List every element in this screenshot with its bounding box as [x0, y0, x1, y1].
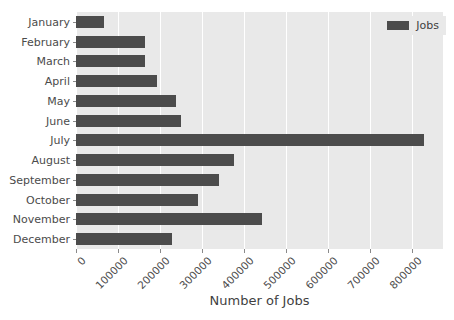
- bar-fill-november: [76, 213, 262, 225]
- y-tick-label-february: February: [21, 36, 70, 47]
- bar-fill-january: [76, 16, 104, 28]
- x-tick-label-800000: 800000: [388, 255, 424, 291]
- y-axis: JanuaryFebruaryMarchAprilMayJuneJulyAugu…: [0, 12, 76, 249]
- y-tick-label-november: November: [13, 214, 70, 225]
- legend-swatch-jobs: [387, 21, 409, 30]
- y-tick-mark-11: [73, 239, 77, 240]
- x-tick-label-200000: 200000: [136, 255, 172, 291]
- y-tick-mark-7: [73, 160, 77, 161]
- legend-label-jobs: Jobs: [416, 20, 439, 31]
- bar-fill-may: [76, 95, 176, 107]
- x-tick-label-100000: 100000: [94, 255, 130, 291]
- y-tick-label-october: October: [26, 194, 70, 205]
- bar-fill-april: [76, 75, 157, 87]
- x-tick-mark-2: [160, 249, 161, 253]
- x-axis-label: Number of Jobs: [76, 294, 443, 308]
- x-tick-mark-0: [76, 249, 77, 253]
- bar-january: [76, 12, 104, 32]
- x-tick-label-0: 0: [75, 255, 87, 267]
- plot-area: [76, 12, 443, 249]
- bar-september: [76, 170, 219, 190]
- bar-march: [76, 52, 145, 72]
- bar-february: [76, 32, 145, 52]
- y-tick-label-july: July: [50, 135, 70, 146]
- x-tick-mark-4: [244, 249, 245, 253]
- bar-fill-september: [76, 174, 219, 186]
- y-tick-mark-6: [73, 140, 77, 141]
- bar-april: [76, 71, 157, 91]
- x-tick-label-300000: 300000: [178, 255, 214, 291]
- x-tick-mark-3: [202, 249, 203, 253]
- bar-october: [76, 190, 198, 210]
- y-tick-label-august: August: [32, 155, 71, 166]
- x-axis: 0100000200000300000400000500000600000700…: [76, 249, 443, 295]
- bar-fill-december: [76, 233, 172, 245]
- x-tick-label-700000: 700000: [346, 255, 382, 291]
- y-tick-label-april: April: [45, 76, 70, 87]
- y-tick-mark-10: [73, 219, 77, 220]
- x-tick-mark-5: [286, 249, 287, 253]
- bar-fill-february: [76, 36, 145, 48]
- legend[interactable]: Jobs: [380, 16, 446, 35]
- bar-fill-march: [76, 55, 145, 67]
- y-tick-label-january: January: [28, 16, 70, 27]
- x-tick-mark-1: [118, 249, 119, 253]
- y-tick-mark-2: [73, 61, 77, 62]
- y-tick-label-may: May: [47, 95, 70, 106]
- bar-july: [76, 131, 424, 151]
- bar-november: [76, 210, 262, 230]
- x-tick-mark-8: [412, 249, 413, 253]
- bar-fill-june: [76, 115, 181, 127]
- bar-fill-october: [76, 194, 198, 206]
- bar-may: [76, 91, 176, 111]
- y-tick-label-september: September: [9, 174, 70, 185]
- y-tick-mark-4: [73, 101, 77, 102]
- y-tick-label-march: March: [36, 56, 70, 67]
- y-tick-mark-9: [73, 200, 77, 201]
- x-tick-mark-6: [328, 249, 329, 253]
- y-tick-label-june: June: [46, 115, 70, 126]
- y-tick-mark-8: [73, 180, 77, 181]
- x-tick-label-400000: 400000: [220, 255, 256, 291]
- x-tick-label-600000: 600000: [304, 255, 340, 291]
- y-tick-mark-5: [73, 121, 77, 122]
- x-tick-label-500000: 500000: [262, 255, 298, 291]
- bar-chart-figure: JanuaryFebruaryMarchAprilMayJuneJulyAugu…: [0, 0, 454, 320]
- x-tick-mark-7: [370, 249, 371, 253]
- y-tick-label-december: December: [13, 234, 70, 245]
- bar-june: [76, 111, 181, 131]
- bar-august: [76, 150, 234, 170]
- y-tick-mark-1: [73, 42, 77, 43]
- bar-fill-august: [76, 154, 234, 166]
- bar-december: [76, 229, 172, 249]
- bar-fill-july: [76, 134, 424, 146]
- y-tick-mark-3: [73, 81, 77, 82]
- y-tick-mark-0: [73, 22, 77, 23]
